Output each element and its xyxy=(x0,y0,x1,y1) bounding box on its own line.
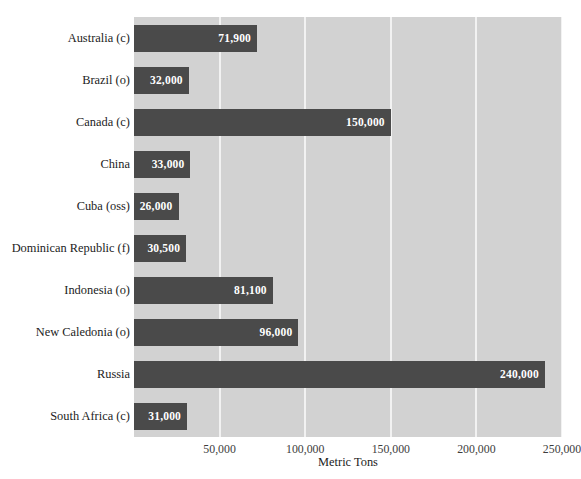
bar-value-label: 30,500 xyxy=(147,242,186,254)
chart-title xyxy=(0,0,581,3)
y-axis-label: China xyxy=(2,143,130,185)
plot-area: 71,90032,000150,00033,00026,00030,50081,… xyxy=(134,17,562,437)
bar: 71,900 xyxy=(134,25,257,52)
bar-row: 31,000 xyxy=(134,395,562,437)
bar-value-label: 240,000 xyxy=(500,368,545,380)
bar-value-label: 71,900 xyxy=(218,32,257,44)
y-axis-category-labels: Australia (c)Brazil (o)Canada (c)ChinaCu… xyxy=(0,17,130,437)
y-axis-label: New Caledonia (o) xyxy=(2,311,130,353)
bar-value-label: 26,000 xyxy=(140,200,179,212)
y-axis-label: Brazil (o) xyxy=(2,59,130,101)
bar-row: 71,900 xyxy=(134,17,562,59)
bar-row: 81,100 xyxy=(134,269,562,311)
bar: 240,000 xyxy=(134,361,545,388)
bar-value-label: 81,100 xyxy=(234,284,273,296)
bar-row: 26,000 xyxy=(134,185,562,227)
bar-row: 30,500 xyxy=(134,227,562,269)
y-axis-label: Russia xyxy=(2,353,130,395)
y-axis-label: Australia (c) xyxy=(2,17,130,59)
bar-row: 96,000 xyxy=(134,311,562,353)
bar: 150,000 xyxy=(134,109,391,136)
bar: 26,000 xyxy=(134,193,179,220)
bar: 96,000 xyxy=(134,319,298,346)
bar-value-label: 33,000 xyxy=(152,158,191,170)
bar-chart: Australia (c)Brazil (o)Canada (c)ChinaCu… xyxy=(0,0,581,479)
bar-row: 32,000 xyxy=(134,59,562,101)
bar-value-label: 31,000 xyxy=(148,410,187,422)
y-axis-label: South Africa (c) xyxy=(2,395,130,437)
bar: 32,000 xyxy=(134,67,189,94)
bar-value-label: 32,000 xyxy=(150,74,189,86)
bar-row: 150,000 xyxy=(134,101,562,143)
bar: 30,500 xyxy=(134,235,186,262)
bar-value-label: 150,000 xyxy=(346,116,391,128)
y-axis-label: Canada (c) xyxy=(2,101,130,143)
bar: 81,100 xyxy=(134,277,273,304)
y-axis-label: Dominican Republic (f) xyxy=(2,227,130,269)
bar: 33,000 xyxy=(134,151,190,178)
bar: 31,000 xyxy=(134,403,187,430)
x-axis-title: Metric Tons xyxy=(134,455,562,470)
bar-row: 240,000 xyxy=(134,353,562,395)
y-axis-label: Indonesia (o) xyxy=(2,269,130,311)
y-axis-label: Cuba (oss) xyxy=(2,185,130,227)
bar-row: 33,000 xyxy=(134,143,562,185)
bar-value-label: 96,000 xyxy=(260,326,299,338)
